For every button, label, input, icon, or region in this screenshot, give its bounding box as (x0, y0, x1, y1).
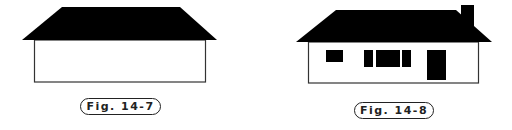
house-wall (35, 40, 206, 82)
door (427, 50, 446, 80)
triple-window-left (364, 50, 373, 67)
triple-window-center (376, 50, 400, 67)
house-roof (22, 7, 217, 40)
figures-canvas (0, 0, 512, 130)
figure-14-7-house (22, 7, 217, 82)
small-window (326, 50, 343, 62)
triple-window-right (402, 50, 411, 67)
figure-14-8-house (296, 5, 492, 83)
figure-caption-14-8: Fig. 14-8 (354, 102, 434, 119)
figure-caption-14-7: Fig. 14-7 (80, 98, 161, 115)
